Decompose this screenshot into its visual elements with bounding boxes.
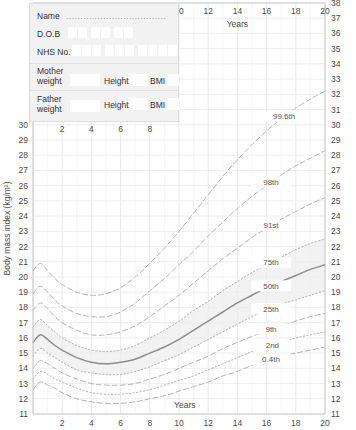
y-tick-left-18: 18: [19, 302, 29, 312]
father-weight-label-line2: weight: [37, 104, 62, 114]
y-tick-right-28: 28: [331, 150, 341, 160]
percentile-label-2nd: 2nd: [266, 341, 279, 350]
x-tick-top-20: 20: [320, 6, 330, 16]
nhs-box[interactable]: [138, 45, 147, 56]
y-tick-right-19: 19: [331, 287, 341, 297]
y-axis-title: Body mass index (kg/m²): [2, 181, 12, 275]
name-dotted-line: ...................................: [66, 11, 166, 21]
y-tick-left-16: 16: [19, 333, 29, 343]
x-tick-inner-4: 4: [89, 124, 94, 134]
x-tick-bottom-14: 14: [233, 418, 243, 428]
x-tick-bottom-4: 4: [89, 418, 94, 428]
divider-father: [30, 90, 178, 91]
y-tick-right-16: 16: [331, 333, 341, 343]
y-tick-left-28: 28: [19, 150, 29, 160]
x-tick-bottom-6: 6: [118, 418, 123, 428]
percentile-label-25th: 25th: [263, 305, 279, 314]
y-tick-right-30: 30: [331, 120, 341, 130]
dob-box[interactable]: [114, 27, 123, 38]
y-tick-right-29: 29: [331, 135, 341, 145]
y-tick-right-26: 26: [331, 181, 341, 191]
father-bmi-label: BMI: [150, 100, 165, 110]
percentile-label-91st: 91st: [263, 221, 279, 230]
y-tick-right-14: 14: [331, 363, 341, 373]
nhs-box[interactable]: [105, 45, 114, 56]
y-tick-left-20: 20: [19, 272, 29, 282]
y-tick-right-38: 38: [331, 0, 341, 8]
y-tick-left-30: 30: [19, 120, 29, 130]
y-tick-left-22: 22: [19, 242, 29, 252]
y-tick-right-35: 35: [331, 44, 341, 54]
mother-height-input[interactable]: [130, 74, 148, 86]
y-tick-right-37: 37: [331, 13, 341, 23]
y-tick-left-21: 21: [19, 257, 29, 267]
father-height-input[interactable]: [130, 98, 148, 110]
percentile-label-75th: 75th: [263, 258, 279, 267]
father-weight-input[interactable]: [70, 100, 100, 112]
nhs-box[interactable]: [125, 45, 134, 56]
divider-mother: [30, 63, 178, 64]
x-axis-title-top: Years: [227, 19, 248, 29]
x-tick-inner-2: 2: [60, 124, 65, 134]
y-tick-right-17: 17: [331, 318, 341, 328]
nhs-box[interactable]: [168, 45, 177, 56]
y-tick-right-22: 22: [331, 242, 341, 252]
y-tick-right-24: 24: [331, 211, 341, 221]
mother-bmi-label: BMI: [150, 76, 165, 86]
x-tick-inner-8: 8: [147, 124, 152, 134]
mother-height-label: Height: [104, 76, 129, 86]
y-tick-right-15: 15: [331, 348, 341, 358]
y-tick-right-18: 18: [331, 302, 341, 312]
y-tick-right-32: 32: [331, 89, 341, 99]
percentile-label-50th: 50th: [263, 282, 279, 291]
percentile-label-9th: 9th: [265, 325, 276, 334]
y-tick-left-23: 23: [19, 226, 29, 236]
dob-box[interactable]: [101, 27, 110, 38]
dob-box[interactable]: [124, 27, 133, 38]
y-tick-left-27: 27: [19, 165, 29, 175]
y-tick-right-36: 36: [331, 28, 341, 38]
dob-box[interactable]: [78, 27, 87, 38]
father-bmi-input[interactable]: [167, 98, 179, 110]
mother-weight-input[interactable]: [70, 74, 100, 86]
name-label: Name: [37, 11, 60, 21]
mother-weight-label-line1: Mother: [37, 66, 63, 76]
y-tick-right-23: 23: [331, 226, 341, 236]
y-tick-right-20: 20: [331, 272, 341, 282]
x-tick-bottom-8: 8: [147, 418, 152, 428]
x-axis-title-bottom: Years: [174, 400, 195, 410]
y-tick-right-11: 11: [331, 409, 340, 419]
x-tick-inner-6: 6: [118, 124, 123, 134]
nhs-box[interactable]: [82, 45, 91, 56]
patient-details-panel[interactable]: Name ...................................…: [29, 3, 179, 122]
y-tick-left-29: 29: [19, 135, 29, 145]
nhs-box[interactable]: [92, 45, 101, 56]
dob-box[interactable]: [91, 27, 100, 38]
nhs-box[interactable]: [115, 45, 124, 56]
y-tick-left-12: 12: [19, 394, 29, 404]
nhs-box[interactable]: [148, 45, 157, 56]
x-tick-top-18: 18: [291, 6, 301, 16]
x-tick-bottom-2: 2: [60, 418, 65, 428]
y-tick-right-33: 33: [331, 74, 341, 84]
nhs-box[interactable]: [72, 45, 81, 56]
x-tick-bottom-10: 10: [174, 418, 184, 428]
y-tick-right-27: 27: [331, 165, 341, 175]
y-tick-right-21: 21: [331, 257, 341, 267]
y-tick-right-12: 12: [331, 394, 341, 404]
y-tick-left-14: 14: [19, 363, 29, 373]
y-tick-left-17: 17: [19, 318, 29, 328]
y-tick-left-15: 15: [19, 348, 29, 358]
dob-box[interactable]: [68, 27, 77, 38]
nhs-box[interactable]: [158, 45, 167, 56]
x-tick-bottom-16: 16: [262, 418, 272, 428]
x-tick-top-14: 14: [233, 6, 243, 16]
mother-bmi-input[interactable]: [167, 74, 179, 86]
y-tick-left-19: 19: [19, 287, 29, 297]
x-tick-top-16: 16: [262, 6, 272, 16]
y-tick-right-31: 31: [331, 105, 341, 115]
dob-label: D.O.B: [37, 29, 60, 39]
y-tick-right-13: 13: [331, 379, 341, 389]
percentile-label-99-6th: 99.6th: [273, 112, 295, 121]
y-tick-right-34: 34: [331, 59, 341, 69]
